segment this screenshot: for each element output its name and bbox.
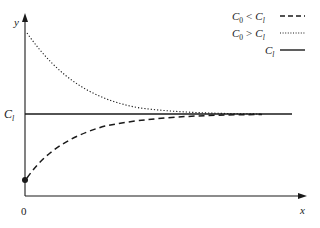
x-axis: x 0 xyxy=(21,193,307,217)
legend-item-cl: Cl xyxy=(265,44,305,59)
legend-item-c0-greater-than-cl: C0>Cl xyxy=(232,27,305,42)
x-axis-arrowhead-icon xyxy=(298,193,307,199)
origin-label: 0 xyxy=(21,205,27,217)
legend: C0<Cl C0>Cl Cl xyxy=(232,10,305,59)
concentration-diagram: y x 0 Cl C0<Cl C0>Cl xyxy=(0,0,320,228)
initial-point-marker xyxy=(22,177,28,183)
cl-axis-label-sub: l xyxy=(12,114,15,123)
svg-text:Cl: Cl xyxy=(265,44,274,59)
legend-item-c0-less-than-cl: C0<Cl xyxy=(232,10,305,25)
curve-c0-greater-than-cl xyxy=(27,33,262,114)
cl-axis-label: Cl xyxy=(4,107,15,123)
x-axis-label: x xyxy=(299,204,305,216)
y-axis-label: y xyxy=(13,16,19,28)
y-axis: y xyxy=(13,13,28,196)
svg-text:C0>Cl: C0>Cl xyxy=(232,27,265,42)
svg-text:Cl: Cl xyxy=(4,107,15,123)
y-axis-arrowhead-icon xyxy=(22,13,28,22)
svg-text:C0<Cl: C0<Cl xyxy=(232,10,265,25)
curve-c0-less-than-cl xyxy=(27,115,262,179)
